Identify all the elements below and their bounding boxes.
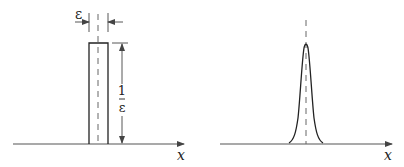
right-x-axis-label: x: [384, 147, 392, 163]
peaked-bell-curve: [289, 44, 323, 143]
left-panel: x ε 1 ε: [13, 6, 185, 163]
delta-function-diagram: x ε 1 ε x: [0, 0, 404, 167]
width-label-epsilon: ε: [75, 6, 82, 22]
left-x-axis-label: x: [177, 147, 185, 163]
right-panel: x: [220, 20, 392, 163]
height-label-numerator: 1: [118, 83, 126, 98]
height-label-denominator: ε: [119, 100, 126, 115]
